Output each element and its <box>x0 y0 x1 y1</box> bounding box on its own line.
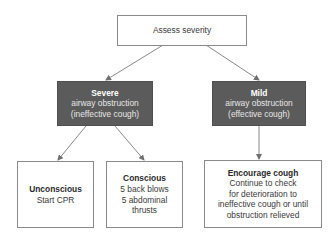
node-title: Mild <box>251 88 268 99</box>
node-line: (ineffective cough) <box>71 109 139 120</box>
node-line: 5 back blows <box>120 184 168 195</box>
arrow-severe-to-unconscious <box>58 126 86 160</box>
node-line: Continue to check <box>229 178 296 189</box>
node-severe: Severe airway obstruction (ineffective c… <box>57 81 153 126</box>
node-line: ineffective cough or until <box>218 199 308 210</box>
node-title: Severe <box>91 88 118 99</box>
node-title: Encourage cough <box>228 168 299 179</box>
node-unconscious: Unconscious Start CPR <box>17 161 94 228</box>
node-assess-severity: Assess severity <box>117 15 247 46</box>
node-mild: Mild airway obstruction (effective cough… <box>212 81 306 126</box>
node-conscious: Conscious 5 back blows 5 abdominal thrus… <box>106 161 183 228</box>
arrow-severe-to-conscious <box>115 126 144 160</box>
node-line: obstruction relieved <box>227 210 300 221</box>
node-line: thrusts <box>132 205 157 216</box>
node-text: Assess severity <box>153 25 211 36</box>
node-encourage-cough: Encourage cough Continue to check for de… <box>204 160 322 228</box>
node-line: 5 abdominal <box>122 195 168 206</box>
arrow-root-to-severe <box>106 45 163 80</box>
node-line: (effective cough) <box>228 109 290 120</box>
node-title: Unconscious <box>29 184 82 195</box>
node-line: Start CPR <box>37 195 75 206</box>
node-title: Conscious <box>123 173 166 184</box>
arrow-root-to-mild <box>206 45 259 80</box>
node-line: airway obstruction <box>71 98 139 109</box>
node-line: for deterioration to <box>229 189 297 200</box>
node-line: airway obstruction <box>225 98 293 109</box>
